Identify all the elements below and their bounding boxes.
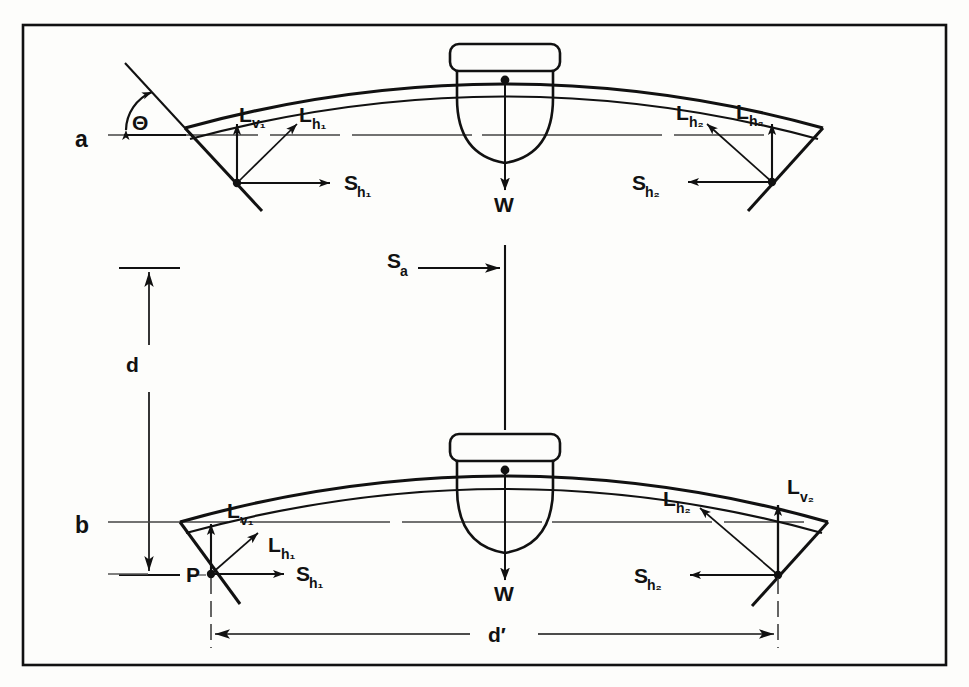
label-Sh1-a-sub: h₁ <box>357 184 372 200</box>
label-Lh1-a-base: L <box>299 103 312 126</box>
label-dimension-d: d <box>126 353 139 376</box>
label-dimension-dprime: d′ <box>488 623 506 646</box>
label-Lh2-diag-a-base: L <box>676 101 689 124</box>
page-background <box>0 0 969 687</box>
label-Lh2-diag-a-sub: h₂ <box>689 114 704 130</box>
label-Lh2-vert-a-sub: h₂ <box>749 113 764 129</box>
load-label-W-a: W <box>494 193 514 216</box>
label-Sh2-a-base: S <box>632 171 646 194</box>
label-Lh1-a-sub: h₁ <box>312 116 327 132</box>
figure-page: a b Θ L v₁ L h₁ S h₁ L h₂ L h₂ S h₂ <box>0 0 969 687</box>
label-point-P: P <box>186 563 200 586</box>
row-label-a: a <box>75 126 88 152</box>
label-Sa-sub: a <box>400 263 408 279</box>
label-Sh2-b-base: S <box>634 564 648 587</box>
label-Lv1-b-sub: v₁ <box>240 512 254 528</box>
label-Sh1-a-base: S <box>344 171 358 194</box>
label-Lv1-a-base: L <box>239 103 252 126</box>
label-Lv1-a-sub: v₁ <box>252 115 266 131</box>
arch-force-diagram: a b Θ L v₁ L h₁ S h₁ L h₂ L h₂ S h₂ <box>0 0 969 687</box>
label-Sa-base: S <box>387 249 401 272</box>
label-Lh2-vert-a-base: L <box>736 100 749 123</box>
label-Lh2-b-sub: h₂ <box>676 500 691 516</box>
label-Lh1-b-base: L <box>268 533 281 556</box>
row-label-b: b <box>75 512 89 538</box>
load-label-W-b: W <box>494 582 514 605</box>
label-Lh1-b-sub: h₁ <box>281 546 296 562</box>
label-Lv1-b-base: L <box>227 499 240 522</box>
label-Sh1-b-sub: h₁ <box>309 575 324 591</box>
angle-label-theta: Θ <box>132 111 148 134</box>
label-Sh2-a-sub: h₂ <box>645 184 660 200</box>
label-Lv2-b-base: L <box>787 475 800 498</box>
label-Lv2-b-sub: v₂ <box>800 489 814 505</box>
label-Sh2-b-sub: h₂ <box>647 577 662 593</box>
label-Lh2-b-base: L <box>663 487 676 510</box>
label-Sh1-b-base: S <box>296 562 310 585</box>
